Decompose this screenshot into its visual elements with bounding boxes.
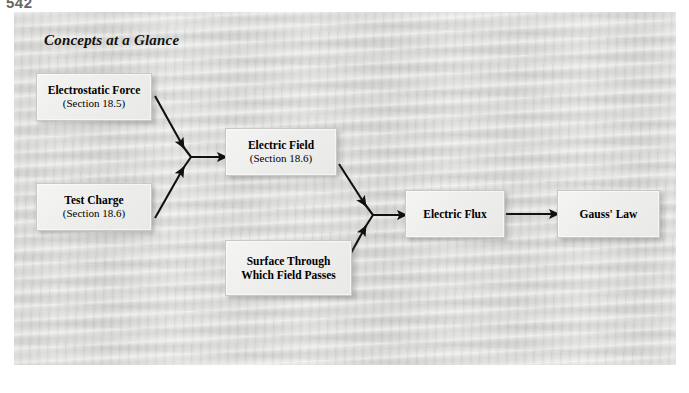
flow-box-electric-field: Electric Field (Section 18.6) xyxy=(225,128,337,176)
page-number: 542 xyxy=(6,0,33,11)
arrow-electrostatic-force-to-junction1 xyxy=(155,96,184,148)
flow-box-title: Gauss' Law xyxy=(580,208,638,221)
junction1-merge-node xyxy=(182,145,191,170)
flow-box-title: Test Charge xyxy=(64,194,123,207)
junction2-merge-node xyxy=(364,203,373,229)
flow-box-title: Electric Field xyxy=(248,139,314,152)
flow-box-test-charge: Test Charge (Section 18.6) xyxy=(36,183,152,231)
flow-box-subtitle: Which Field Passes xyxy=(241,268,336,282)
arrow-test-charge-to-junction1 xyxy=(155,167,184,218)
flow-box-title: Surface Through xyxy=(247,254,331,268)
concepts-at-a-glance-panel: Concepts at a Glance Electrostatic Force… xyxy=(14,12,676,365)
flow-box-subtitle: (Section 18.6) xyxy=(63,207,125,220)
flow-box-electric-flux: Electric Flux xyxy=(405,190,505,238)
flow-box-subtitle: (Section 18.5) xyxy=(63,97,125,110)
flow-box-gauss-law: Gauss' Law xyxy=(557,190,660,238)
arrow-electric-field-to-junction2 xyxy=(339,164,366,206)
flow-box-title: Electrostatic Force xyxy=(48,84,141,97)
flow-box-surface-through-which-field-passes: Surface Through Which Field Passes xyxy=(225,240,352,296)
panel-title: Concepts at a Glance xyxy=(44,32,179,49)
flow-box-subtitle: (Section 18.6) xyxy=(250,152,312,165)
flow-box-electrostatic-force: Electrostatic Force (Section 18.5) xyxy=(36,73,152,121)
flow-box-title: Electric Flux xyxy=(423,208,487,221)
